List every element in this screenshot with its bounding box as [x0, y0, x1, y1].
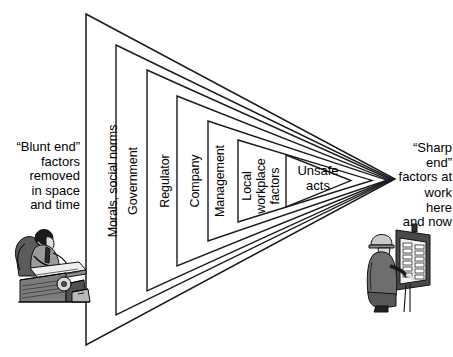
blunt-end-caption: “Blunt end” factors removed in space and…	[2, 140, 80, 213]
layer-label-company: Company	[189, 147, 203, 215]
layer-label-management: Management	[214, 138, 228, 224]
layer-label-unsafe-acts: Unsafe acts	[289, 163, 347, 193]
sharp-end-caption-top: “Sharp end” factors at	[396, 141, 452, 185]
diagram-canvas: Morals, social norms Government Regulato…	[0, 0, 453, 357]
layer-label-morals: Morals, social norms	[107, 112, 121, 250]
layer-label-government: Government	[127, 139, 141, 223]
seated-operator-at-console-icon	[8, 218, 92, 304]
layer-label-regulator: Regulator	[159, 146, 173, 216]
layer-label-local-workplace-factors: Local workplace factors	[240, 147, 282, 225]
worker-at-electrical-panel-icon	[360, 222, 436, 314]
